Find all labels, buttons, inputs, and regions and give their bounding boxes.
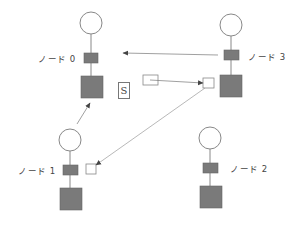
- node-1: [59, 129, 96, 210]
- arrow-node3-to-node1: [96, 88, 205, 165]
- node-0-label: ノード 0: [38, 52, 76, 64]
- node-2-label: ノード 2: [230, 162, 268, 174]
- node-3-label: ノード 3: [248, 50, 286, 62]
- node-2-small-box: [203, 163, 218, 173]
- node-2-circle: [199, 127, 221, 149]
- arrow-node3-to-node0: [123, 53, 218, 55]
- node-0-large-box: [81, 76, 103, 98]
- node-1-message-box: [86, 164, 96, 174]
- node-3-circle: [220, 14, 242, 36]
- arrow-node1-to-node0: [77, 103, 90, 124]
- message-box-receiver: [203, 78, 214, 88]
- node-0-circle: [80, 12, 102, 34]
- node-diagram: [0, 0, 300, 226]
- node-1-small-box: [63, 165, 78, 175]
- node-1-large-box: [60, 188, 82, 210]
- node-0: [80, 12, 103, 98]
- node-2-large-box: [200, 186, 222, 208]
- node-1-label: ノード 1: [18, 164, 56, 176]
- node-0-small-box: [84, 53, 98, 63]
- node-3: [220, 14, 242, 97]
- node-1-circle: [59, 129, 81, 151]
- node-3-large-box: [220, 75, 242, 97]
- node-3-small-box: [224, 50, 239, 60]
- s-box: S: [118, 82, 130, 99]
- node-2: [199, 127, 222, 208]
